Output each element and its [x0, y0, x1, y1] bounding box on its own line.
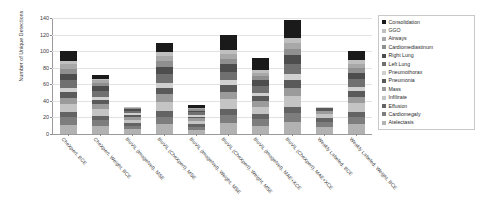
gridline	[52, 68, 372, 69]
legend-item[interactable]: Pneumothorax	[382, 68, 472, 76]
bar[interactable]	[220, 35, 237, 134]
plot-area: 020406080100120140 CheXpert, BCECheXpert…	[52, 18, 372, 134]
legend-item[interactable]: Left Lung	[382, 60, 472, 68]
bar-segment	[156, 94, 173, 101]
bar[interactable]	[252, 58, 269, 134]
bar-segment	[156, 102, 173, 111]
y-tick-label: 60	[43, 81, 49, 87]
legend-swatch-icon	[382, 87, 386, 91]
legend-swatch-icon	[382, 121, 386, 125]
bar-segment	[220, 92, 237, 99]
gridline	[52, 18, 372, 19]
bar-segment	[348, 97, 365, 104]
y-tick-label: 0	[46, 131, 49, 137]
legend-label: GGO	[389, 28, 401, 33]
bar[interactable]	[316, 107, 333, 134]
x-tick-label: CheXpert, BCE	[61, 136, 89, 166]
legend-item[interactable]: Cardiomegaly	[382, 110, 472, 118]
y-tick-mark	[50, 18, 52, 19]
bar-segment	[284, 80, 301, 87]
legend-item[interactable]: Mass	[382, 85, 472, 93]
bar-segment	[348, 103, 365, 111]
chart-legend: ConsolidationGGOAirwaysCardiomediastinum…	[378, 15, 475, 130]
x-tick-label: BioViL (CheXpert), Weight, MSE	[221, 136, 275, 195]
bar-segment	[284, 88, 301, 96]
bar-segment	[220, 64, 237, 71]
bar-segment	[220, 123, 237, 134]
x-tick-mark	[324, 134, 325, 136]
bar-segment	[60, 51, 77, 61]
legend-label: Effusion	[389, 104, 408, 109]
bar[interactable]	[156, 43, 173, 134]
bar-segment	[60, 117, 77, 124]
legend-swatch-icon	[382, 45, 386, 49]
legend-swatch-icon	[382, 79, 386, 83]
legend-label: Mass	[389, 87, 401, 92]
bar-segment	[348, 117, 365, 124]
bar-segment	[284, 113, 301, 122]
bar-segment	[156, 74, 173, 82]
bar-segment	[252, 119, 269, 126]
legend-item[interactable]: Atelectasis	[382, 119, 472, 127]
bar-segment	[220, 35, 237, 50]
legend-item[interactable]: Infiltrate	[382, 94, 472, 102]
x-tick-mark	[228, 134, 229, 136]
legend-swatch-icon	[382, 29, 386, 33]
legend-item[interactable]: Effusion	[382, 102, 472, 110]
bar-segment	[348, 51, 365, 60]
legend-item[interactable]: Consolidation	[382, 18, 472, 26]
y-tick-label: 100	[40, 48, 49, 54]
x-tick-mark	[68, 134, 69, 136]
bar-segment	[156, 88, 173, 95]
bar-segment	[60, 74, 77, 81]
legend-item[interactable]: Cardiomediastinum	[382, 43, 472, 51]
bar-segment	[316, 127, 333, 134]
gridline	[52, 51, 372, 52]
bar[interactable]	[92, 75, 109, 134]
y-tick-mark	[50, 35, 52, 36]
bar[interactable]	[124, 107, 141, 134]
legend-item[interactable]: GGO	[382, 26, 472, 34]
legend-label: Infiltrate	[389, 95, 407, 100]
bar-segment	[348, 124, 365, 134]
bar-segment	[60, 104, 77, 112]
legend-label: Left Lung	[389, 62, 411, 67]
gridline	[52, 35, 372, 36]
bar[interactable]	[60, 51, 77, 134]
x-tick-mark	[164, 134, 165, 136]
y-tick-mark	[50, 68, 52, 69]
x-tick-mark	[132, 134, 133, 136]
x-tick-label: BioViL (ImageNet), Weight, MSE	[189, 136, 243, 195]
legend-swatch-icon	[382, 112, 386, 116]
bar-segment	[284, 49, 301, 56]
legend-label: Consolidation	[389, 20, 420, 25]
bar-segment	[252, 107, 269, 114]
bar[interactable]	[188, 105, 205, 134]
y-tick-mark	[50, 51, 52, 52]
bar-segment	[220, 99, 237, 109]
legend-item[interactable]: Pneumonia	[382, 77, 472, 85]
bar-segment	[252, 86, 269, 93]
x-tick-mark	[292, 134, 293, 136]
bar[interactable]	[348, 51, 365, 134]
legend-item[interactable]: Airways	[382, 35, 472, 43]
bar-segment	[284, 96, 301, 107]
bar-segment	[92, 109, 109, 116]
bar-segment	[60, 98, 77, 105]
bar-segment	[252, 126, 269, 134]
x-tick-mark	[260, 134, 261, 136]
legend-swatch-icon	[382, 37, 386, 41]
legend-label: Cardiomegaly	[389, 112, 421, 117]
bar[interactable]	[284, 20, 301, 134]
legend-item[interactable]: Right Lung	[382, 52, 472, 60]
x-tick-mark	[100, 134, 101, 136]
x-tick-mark	[196, 134, 197, 136]
bar-segment	[284, 55, 301, 64]
y-tick-mark	[50, 134, 52, 135]
legend-swatch-icon	[382, 96, 386, 100]
bar-segment	[60, 80, 77, 87]
legend-label: Cardiomediastinum	[389, 45, 434, 50]
x-tick-label: Weakly Labeled, Weight, BCE	[349, 136, 399, 191]
y-tick-label: 80	[43, 65, 49, 71]
bar-segment	[284, 122, 301, 134]
